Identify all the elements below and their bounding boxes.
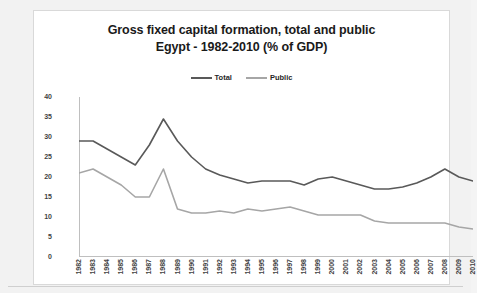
x-axis-labels: 1982198319841985198619871988198919901991… — [79, 259, 473, 293]
y-axis-tick-label: 20 — [34, 173, 52, 181]
series-line-total — [79, 119, 473, 189]
x-axis-tick-label: 2010 — [469, 259, 477, 275]
x-axis-tick-label: 1995 — [258, 259, 266, 275]
y-axis-tick-label: 10 — [34, 213, 52, 221]
x-axis-tick-label: 1994 — [244, 259, 252, 275]
plot-wrapper — [79, 97, 473, 257]
x-axis-tick-label: 2008 — [441, 259, 449, 275]
x-axis-tick-label: 1986 — [131, 259, 139, 275]
x-axis-tick-label: 1996 — [272, 259, 280, 275]
x-axis-tick-label: 2007 — [427, 259, 435, 275]
x-axis-tick-label: 2002 — [356, 259, 364, 275]
chart-legend: TotalPublic — [34, 73, 449, 82]
y-axis-tick-label: 35 — [34, 113, 52, 121]
legend-item-total[interactable]: Total — [191, 73, 232, 82]
x-axis-tick-label: 1983 — [89, 259, 97, 275]
legend-label: Total — [215, 73, 232, 82]
legend-swatch-icon — [191, 77, 212, 79]
x-axis-tick-label: 1989 — [174, 259, 182, 275]
legend-label: Public — [270, 73, 293, 82]
y-axis-tick-label: 25 — [34, 153, 52, 161]
chart-title-line-1: Gross fixed capital formation, total and… — [34, 22, 449, 39]
x-axis-tick-label: 2000 — [328, 259, 336, 275]
x-axis-tick-label: 1982 — [75, 259, 83, 275]
x-axis-tick-label: 1999 — [314, 259, 322, 275]
x-axis-tick-label: 2006 — [413, 259, 421, 275]
x-axis-tick-label: 2001 — [342, 259, 350, 275]
x-axis-tick-label: 1998 — [300, 259, 308, 275]
y-axis-tick-label: 5 — [34, 233, 52, 241]
x-axis-tick-label: 2005 — [399, 259, 407, 275]
x-axis-tick-label: 1997 — [286, 259, 294, 275]
x-axis-tick-label: 1987 — [145, 259, 153, 275]
x-axis-tick-label: 1988 — [159, 259, 167, 275]
y-axis-labels: 0510152025303540 — [34, 97, 52, 257]
y-axis-tick-label: 30 — [34, 133, 52, 141]
y-axis-tick-label: 0 — [34, 253, 52, 261]
series-line-public — [79, 169, 473, 229]
chart-frame: Gross fixed capital formation, total and… — [33, 10, 450, 285]
y-axis-tick-label: 40 — [34, 93, 52, 101]
legend-item-public[interactable]: Public — [246, 73, 293, 82]
x-axis-tick-label: 1991 — [202, 259, 210, 275]
x-axis-tick-label: 1992 — [216, 259, 224, 275]
page-divider — [8, 286, 463, 287]
x-axis-tick-label: 2003 — [371, 259, 379, 275]
y-axis-tick-label: 15 — [34, 193, 52, 201]
chart-title-line-2: Egypt - 1982-2010 (% of GDP) — [34, 39, 449, 56]
x-axis-tick-label: 1985 — [117, 259, 125, 275]
legend-swatch-icon — [246, 77, 267, 79]
x-axis-tick-label: 1990 — [188, 259, 196, 275]
plot-lines — [79, 97, 473, 257]
x-axis-tick-label: 2009 — [455, 259, 463, 275]
x-axis-tick-label: 2004 — [385, 259, 393, 275]
x-axis-tick-label: 1993 — [230, 259, 238, 275]
x-axis-tick-label: 1984 — [103, 259, 111, 275]
chart-title: Gross fixed capital formation, total and… — [34, 22, 449, 56]
